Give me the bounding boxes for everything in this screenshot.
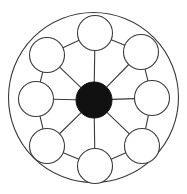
hub-group <box>76 82 112 118</box>
node-circle-upper-right[interactable] <box>124 35 159 70</box>
spoke-hub-n8 <box>60 67 81 87</box>
spoke-hub-n6 <box>60 113 82 134</box>
wheel-graph-svg <box>0 0 187 194</box>
chord-n2-n3 <box>145 69 148 81</box>
chord-n1-n2 <box>111 40 125 46</box>
node-circle-top[interactable] <box>78 16 113 51</box>
hub-node-circle[interactable] <box>76 82 112 118</box>
node-circle-right[interactable] <box>135 81 170 116</box>
spoke-hub-n3 <box>112 99 135 100</box>
spoke-hub-n2 <box>107 65 129 88</box>
node-circle-upper-left[interactable] <box>30 38 65 73</box>
wheel-diagram-canvas <box>0 0 187 194</box>
chord-n4-n5 <box>111 153 126 159</box>
node-circle-lower-left[interactable] <box>30 129 65 164</box>
chord-n8-n1 <box>63 40 79 47</box>
node-circle-left[interactable] <box>19 82 54 117</box>
chord-n5-n6 <box>63 153 79 160</box>
chord-n3-n4 <box>146 115 149 129</box>
node-circle-lower-right[interactable] <box>125 129 160 164</box>
node-circle-bottom[interactable] <box>78 149 113 184</box>
spoke-hub-n4 <box>107 112 129 133</box>
chord-n7-n8 <box>40 72 43 82</box>
chord-n6-n7 <box>40 116 43 129</box>
